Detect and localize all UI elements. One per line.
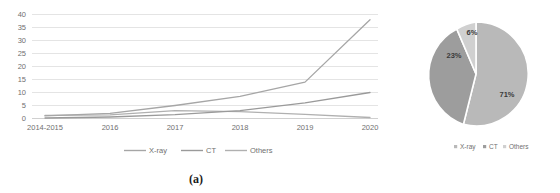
legend-item-ct[interactable]: CT bbox=[181, 146, 216, 155]
pie-legend-label-others: Others bbox=[509, 143, 529, 150]
x-tick-2020: 2020 bbox=[362, 123, 379, 132]
figure-container: 40 35 30 25 20 15 10 5 0 bbox=[0, 0, 560, 193]
legend-label-xray: X-ray bbox=[149, 146, 167, 155]
y-tick-30: 30 bbox=[18, 36, 26, 45]
x-tick-2014-2015: 2014-2015 bbox=[27, 123, 63, 132]
pie-legend-item-others[interactable]: Others bbox=[503, 143, 529, 150]
series-line-xray bbox=[45, 20, 370, 116]
pie-label-xray: 71% bbox=[499, 90, 514, 99]
x-tick-2018: 2018 bbox=[232, 123, 249, 132]
pie-chart-plot-area: 71% 23% 6% X-ray CT Others bbox=[392, 0, 560, 165]
y-tick-10: 10 bbox=[18, 88, 26, 97]
pie-legend-item-xray[interactable]: X-ray bbox=[454, 143, 476, 151]
pie-legend-swatch-ct bbox=[483, 145, 486, 148]
y-tick-35: 35 bbox=[18, 23, 26, 32]
legend-label-ct: CT bbox=[206, 146, 216, 155]
line-chart-svg: 40 35 30 25 20 15 10 5 0 bbox=[0, 0, 392, 165]
line-chart-plot-area: 40 35 30 25 20 15 10 5 0 bbox=[0, 0, 392, 165]
x-tick-2019: 2019 bbox=[297, 123, 314, 132]
pie-legend-swatch-xray bbox=[454, 145, 457, 148]
y-tick-40: 40 bbox=[18, 10, 26, 19]
legend-label-others: Others bbox=[250, 146, 273, 155]
y-tick-5: 5 bbox=[22, 101, 26, 110]
pie-chart-legend: X-ray CT Others bbox=[454, 143, 529, 151]
pie-legend-item-ct[interactable]: CT bbox=[483, 143, 498, 150]
line-chart-legend: X-ray CT Others bbox=[124, 146, 273, 155]
panel-a-line-chart: 40 35 30 25 20 15 10 5 0 bbox=[0, 0, 392, 193]
panel-a-caption: (a) bbox=[0, 172, 392, 187]
y-tick-15: 15 bbox=[18, 75, 26, 84]
panel-b-pie-chart: 71% 23% 6% X-ray CT Others bbox=[392, 0, 560, 193]
y-axis-tick-labels: 40 35 30 25 20 15 10 5 0 bbox=[18, 10, 26, 123]
x-tick-2016: 2016 bbox=[102, 123, 119, 132]
pie-label-ct: 23% bbox=[446, 51, 461, 60]
legend-item-others[interactable]: Others bbox=[225, 146, 273, 155]
pie-legend-swatch-others bbox=[503, 145, 506, 148]
y-tick-25: 25 bbox=[18, 49, 26, 58]
pie-chart-svg: 71% 23% 6% X-ray CT Others bbox=[392, 0, 560, 165]
pie-legend-label-ct: CT bbox=[489, 143, 498, 150]
y-tick-20: 20 bbox=[18, 62, 26, 71]
pie-legend-label-xray: X-ray bbox=[460, 143, 476, 151]
gridlines bbox=[32, 15, 378, 106]
y-tick-0: 0 bbox=[22, 114, 26, 123]
pie-label-others: 6% bbox=[467, 28, 478, 37]
x-tick-2017: 2017 bbox=[167, 123, 184, 132]
legend-item-xray[interactable]: X-ray bbox=[124, 146, 167, 155]
x-axis-tick-labels: 2014-2015 2016 2017 2018 2019 2020 bbox=[27, 123, 378, 132]
